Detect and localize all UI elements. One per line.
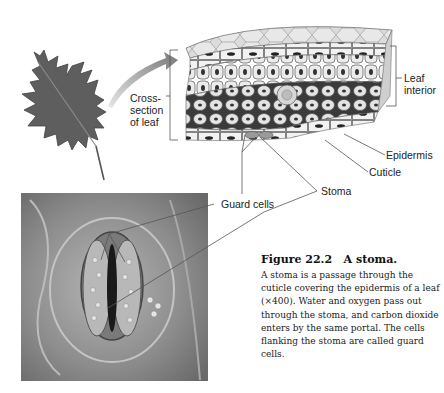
leaf-cross-section-illustration [186,27,392,141]
guard-cells-label: Guard cells [221,198,274,210]
cross-section-line3: of leaf [130,116,163,128]
cuticle-label: Cuticle [369,166,401,178]
caption-title: Figure 22.2 A stoma. [261,253,441,266]
leaf-interior-line2: interior [404,84,436,96]
stoma-label: Stoma [321,185,351,197]
stoma-micrograph [21,193,208,381]
caption-body: A stoma is a passage through the cuticle… [261,269,441,361]
leaf-interior-label: Leaf interior [404,72,436,96]
figure-caption: Figure 22.2 A stoma. A stoma is a passag… [261,253,441,361]
oak-leaf-illustration [22,50,106,180]
leaf-interior-line1: Leaf [404,72,436,84]
cross-section-line1: Cross- [130,92,163,104]
cross-section-label: Cross- section of leaf [130,92,163,128]
cross-section-line2: section [130,104,163,116]
figure-title: A stoma. [344,253,398,266]
epidermis-label: Epidermis [386,149,433,161]
figure-number: Figure 22.2 [261,253,332,266]
